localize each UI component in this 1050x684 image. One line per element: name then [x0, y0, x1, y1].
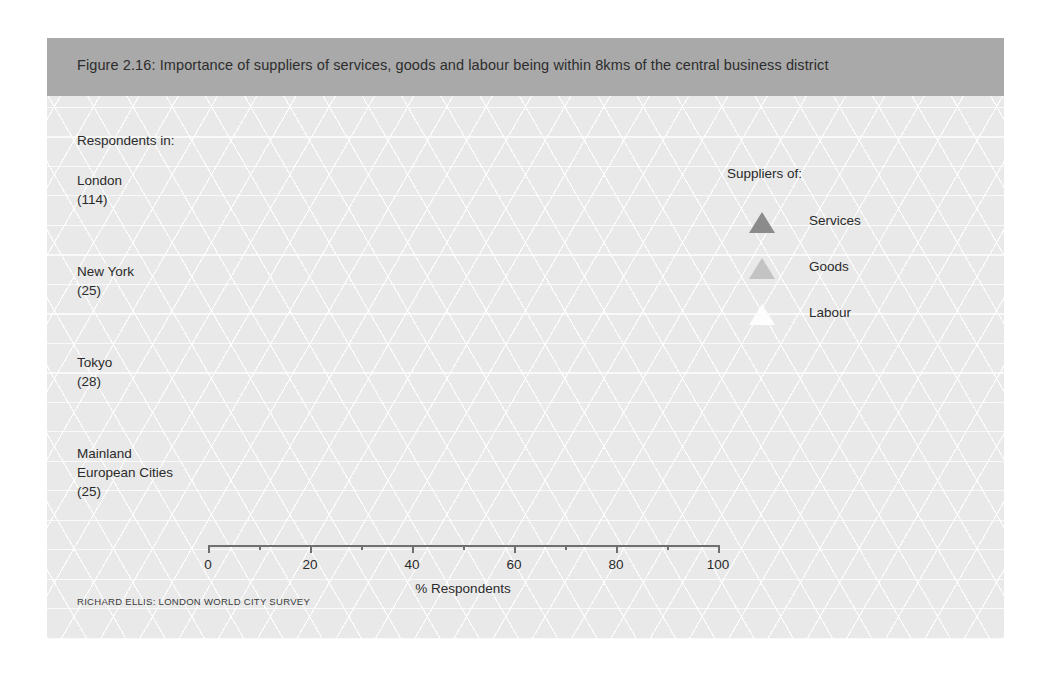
bar-labour-3 [208, 499, 375, 525]
source-note: RICHARD ELLIS: LONDON WORLD CITY SURVEY [77, 596, 310, 607]
axis-tick-label: 20 [302, 557, 317, 572]
axis-tick-minor [259, 545, 261, 550]
axis-tick-major [718, 545, 720, 553]
legend-label: Goods [809, 259, 849, 274]
axis-tick-minor [463, 545, 465, 550]
axis-tick-label: 100 [707, 557, 730, 572]
triangle-marker-icon [749, 304, 775, 325]
bar-goods-1 [208, 291, 360, 317]
triangle-marker-icon [749, 212, 775, 233]
bar-goods-2 [208, 382, 406, 408]
axis-title: % Respondents [208, 581, 718, 596]
axis-tick-minor [361, 545, 363, 550]
axis-tick-major [412, 545, 414, 553]
axis-tick-minor [565, 545, 567, 550]
bar-goods-0 [208, 200, 299, 226]
legend-title: Suppliers of: [727, 166, 802, 181]
bar-services-0 [208, 174, 482, 200]
axis-tick-major [616, 545, 618, 553]
figure-container: Figure 2.16: Importance of suppliers of … [47, 38, 1004, 639]
bar-services-3 [208, 447, 482, 473]
axis-tick-minor [667, 545, 669, 550]
axis-tick-label: 40 [404, 557, 419, 572]
bars-layer [47, 38, 1004, 639]
bar-goods-3 [208, 473, 380, 499]
axis-tick-major [514, 545, 516, 553]
legend-label: Labour [809, 305, 851, 320]
bar-services-1 [208, 265, 375, 291]
triangle-marker-icon [749, 258, 775, 279]
bar-labour-0 [208, 226, 258, 252]
legend-label: Services [809, 213, 861, 228]
axis-tick-label: 0 [204, 557, 212, 572]
bar-services-2 [208, 356, 651, 382]
axis-tick-major [310, 545, 312, 553]
bar-labour-1 [208, 317, 309, 343]
bar-labour-2 [208, 408, 457, 434]
axis-tick-label: 80 [608, 557, 623, 572]
axis-tick-label: 60 [506, 557, 521, 572]
axis-tick-major [208, 545, 210, 553]
